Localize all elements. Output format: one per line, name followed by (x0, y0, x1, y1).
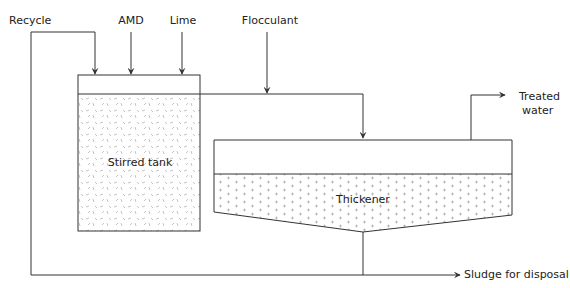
treated-water-label-line2: water (522, 104, 553, 117)
stirred-tank-shape (78, 75, 200, 231)
sludge-label: Sludge for disposal (464, 268, 569, 281)
process-diagram (0, 0, 570, 288)
stirred-tank-label: Stirred tank (108, 156, 173, 169)
treated-water-line (471, 95, 505, 140)
flocculant-label: Flocculant (242, 14, 298, 27)
thickener-label: Thickener (336, 193, 390, 206)
tank-to-thickener-pipe (200, 94, 363, 138)
lime-label: Lime (170, 14, 197, 27)
treated-water-label-line1: Treated (519, 90, 560, 103)
recycle-label: Recycle (9, 14, 51, 27)
thickener-shape (214, 140, 512, 232)
amd-label: AMD (118, 14, 144, 27)
